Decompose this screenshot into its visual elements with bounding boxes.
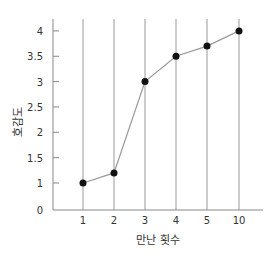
y-tick-label: 2 bbox=[37, 127, 43, 138]
x-axis-title: 만난 횟수 bbox=[136, 234, 180, 247]
vertical-gridlines bbox=[83, 19, 239, 210]
y-tick-label: 2.5 bbox=[27, 102, 43, 113]
x-tick-label: 5 bbox=[204, 215, 210, 226]
data-point bbox=[173, 53, 180, 60]
x-tick-label: 2 bbox=[111, 215, 117, 226]
x-tick-label: 1 bbox=[80, 215, 86, 226]
y-tick-label: 1.5 bbox=[27, 153, 43, 164]
data-point-markers bbox=[80, 27, 243, 186]
data-point bbox=[111, 169, 118, 176]
data-point bbox=[236, 27, 243, 34]
y-tick-label: 4 bbox=[37, 26, 43, 37]
y-tick-label: 3.5 bbox=[27, 51, 43, 62]
data-point bbox=[80, 180, 87, 187]
x-tick-label: 3 bbox=[142, 215, 148, 226]
y-axis-title: 호감도 bbox=[12, 107, 25, 137]
data-point bbox=[204, 43, 211, 50]
y-tick-label: 0 bbox=[37, 205, 43, 216]
line-chart: 011.522.533.54 1234510 만난 횟수 호감도 bbox=[0, 0, 278, 260]
y-tick-label: 3 bbox=[37, 77, 43, 88]
y-axis-ticks: 011.522.533.54 bbox=[27, 26, 59, 216]
x-tick-label: 10 bbox=[233, 215, 246, 226]
x-tick-label: 4 bbox=[173, 215, 179, 226]
x-axis-ticks: 1234510 bbox=[80, 215, 246, 226]
y-tick-label: 1 bbox=[37, 178, 43, 189]
data-point bbox=[142, 78, 149, 85]
series-line bbox=[83, 31, 239, 183]
